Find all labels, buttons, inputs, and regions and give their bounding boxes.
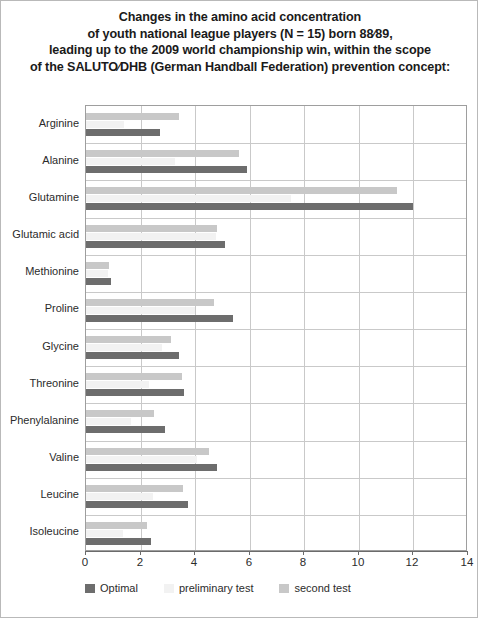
bar-group [86, 255, 466, 292]
x-axis-tick-2 [140, 551, 141, 555]
bar-group [86, 180, 466, 217]
bar-group [86, 366, 466, 403]
bar-optimal-methionine [86, 278, 111, 285]
y-axis-label-arginine: Arginine [1, 118, 79, 129]
x-axis-tick-6 [249, 551, 250, 555]
x-axis-line [85, 551, 467, 552]
bar-group [86, 218, 466, 255]
bar-optimal-glutamine [86, 203, 413, 210]
bar-group [86, 329, 466, 366]
bar-second-test-isoleucine [86, 522, 147, 529]
bar-group [86, 106, 466, 143]
bar-second-test-proline [86, 299, 214, 306]
bar-preliminary-test-glycine [86, 344, 162, 351]
x-axis-tick-label-6: 6 [234, 556, 264, 568]
y-axis-label-alanine: Alanine [1, 155, 79, 166]
y-axis-label-leucine: Leucine [1, 489, 79, 500]
bar-optimal-isoleucine [86, 538, 151, 545]
legend-item-preliminary-test[interactable]: preliminary test [164, 582, 254, 594]
x-axis-tick-label-2: 2 [125, 556, 155, 568]
bar-preliminary-test-glutamic-acid [86, 233, 216, 240]
x-axis-tick-10 [358, 551, 359, 555]
y-axis-label-proline: Proline [1, 303, 79, 314]
bar-optimal-alanine [86, 166, 247, 173]
legend-label: second test [294, 582, 350, 594]
bar-optimal-phenylalanine [86, 426, 165, 433]
bar-group [86, 478, 466, 515]
bar-group [86, 143, 466, 180]
chart-legend: Optimalpreliminary testsecond test [85, 580, 377, 596]
bar-second-test-leucine [86, 485, 183, 492]
bar-optimal-leucine [86, 501, 188, 508]
bar-preliminary-test-methionine [86, 270, 108, 277]
legend-swatch-icon [164, 584, 174, 593]
bar-preliminary-test-proline [86, 307, 195, 314]
x-axis-tick-label-10: 10 [343, 556, 373, 568]
bar-optimal-arginine [86, 129, 160, 136]
x-axis-tick-8 [303, 551, 304, 555]
bar-second-test-arginine [86, 113, 179, 120]
bar-second-test-glutamic-acid [86, 225, 217, 232]
bar-second-test-threonine [86, 373, 182, 380]
bar-second-test-phenylalanine [86, 410, 154, 417]
y-axis-label-glutamine: Glutamine [1, 192, 79, 203]
bar-preliminary-test-glutamine [86, 195, 291, 202]
bar-preliminary-test-valine [86, 456, 197, 463]
bar-preliminary-test-isoleucine [86, 530, 123, 537]
y-axis-label-glutamic-acid: Glutamic acid [1, 229, 79, 240]
y-axis-label-valine: Valine [1, 452, 79, 463]
bar-second-test-alanine [86, 150, 239, 157]
bar-optimal-glycine [86, 352, 179, 359]
chart-title: Changes in the amino acid concentration … [11, 9, 469, 75]
plot-area [85, 105, 467, 551]
bar-preliminary-test-alanine [86, 158, 175, 165]
bar-preliminary-test-leucine [86, 493, 153, 500]
bar-second-test-valine [86, 448, 209, 455]
bar-group [86, 403, 466, 440]
x-axis-tick-label-4: 4 [179, 556, 209, 568]
legend-swatch-icon [279, 584, 289, 593]
title-line-1: Changes in the amino acid concentration [11, 9, 469, 26]
bar-group [86, 292, 466, 329]
y-axis-label-threonine: Threonine [1, 378, 79, 389]
y-axis-label-isoleucine: Isoleucine [1, 526, 79, 537]
x-axis-tick-label-14: 14 [452, 556, 478, 568]
bar-second-test-glutamine [86, 187, 397, 194]
x-axis-tick-label-12: 12 [397, 556, 427, 568]
title-line-2: of youth national league players (N = 15… [11, 26, 469, 43]
y-axis-label-methionine: Methionine [1, 266, 79, 277]
x-axis-tick-4 [194, 551, 195, 555]
bar-second-test-methionine [86, 262, 109, 269]
title-line-3: leading up to the 2009 world championshi… [11, 42, 469, 59]
legend-label: Optimal [100, 582, 138, 594]
bar-preliminary-test-phenylalanine [86, 418, 131, 425]
x-axis-tick-label-8: 8 [288, 556, 318, 568]
x-axis-tick-0 [85, 551, 86, 555]
legend-swatch-icon [85, 584, 95, 593]
y-axis-label-phenylalanine: Phenylalanine [1, 415, 79, 426]
legend-item-optimal[interactable]: Optimal [85, 582, 138, 594]
x-axis-tick-label-0: 0 [70, 556, 100, 568]
bar-group [86, 441, 466, 478]
bar-optimal-proline [86, 315, 233, 322]
x-axis-tick-14 [467, 551, 468, 555]
legend-item-second-test[interactable]: second test [279, 582, 350, 594]
bar-second-test-glycine [86, 336, 171, 343]
bar-preliminary-test-arginine [86, 121, 124, 128]
bar-group [86, 515, 466, 552]
bar-optimal-valine [86, 464, 217, 471]
bar-optimal-glutamic-acid [86, 241, 225, 248]
bar-optimal-threonine [86, 389, 184, 396]
y-axis-label-glycine: Glycine [1, 341, 79, 352]
x-axis-tick-12 [412, 551, 413, 555]
bar-preliminary-test-threonine [86, 381, 149, 388]
legend-label: preliminary test [179, 582, 254, 594]
chart-figure: Changes in the amino acid concentration … [0, 0, 478, 618]
title-line-4: of the SALUTO⁄DHB (German Handball Feder… [11, 59, 469, 76]
